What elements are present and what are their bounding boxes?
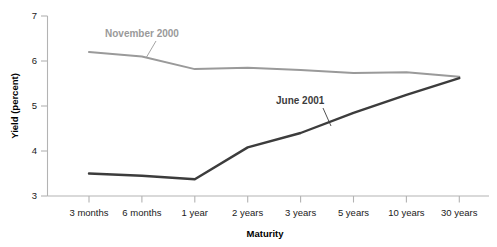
y-tick-label-5: 5 — [32, 100, 37, 111]
y-tick-label-7: 7 — [32, 10, 37, 21]
series-line-0 — [89, 52, 459, 77]
series-line-1 — [89, 78, 459, 179]
x-tick-label-5: 5 years — [338, 207, 369, 218]
y-axis-group: 34567 — [32, 10, 48, 201]
x-axis-group: 3 months6 months1 year2 years3 years5 ye… — [48, 196, 490, 218]
annotation-leader-0 — [146, 41, 156, 58]
x-tick-label-0: 3 months — [69, 207, 108, 218]
x-tick-label-6: 10 years — [388, 207, 425, 218]
x-tick-label-2: 1 year — [182, 207, 208, 218]
series-annotation-label-0: November 2000 — [105, 28, 179, 39]
x-axis-title: Maturity — [247, 228, 285, 239]
series-annotation-label-1: June 2001 — [276, 95, 325, 106]
y-axis-title: Yield (percent) — [9, 73, 20, 139]
x-ticks: 3 months6 months1 year2 years3 years5 ye… — [69, 196, 477, 218]
x-tick-label-7: 30 years — [441, 207, 478, 218]
y-tick-label-6: 6 — [32, 55, 37, 66]
x-tick-label-3: 2 years — [232, 207, 263, 218]
y-ticks: 34567 — [32, 10, 48, 201]
y-tick-label-3: 3 — [32, 190, 37, 201]
yield-curve-chart: 34567 3 months6 months1 year2 years3 yea… — [0, 0, 497, 247]
x-tick-label-1: 6 months — [122, 207, 161, 218]
y-tick-label-4: 4 — [32, 145, 37, 156]
annotation-group: November 2000June 2001 — [105, 28, 331, 126]
chart-canvas: 34567 3 months6 months1 year2 years3 yea… — [0, 0, 497, 247]
x-tick-label-4: 3 years — [285, 207, 316, 218]
series-group — [89, 52, 459, 179]
